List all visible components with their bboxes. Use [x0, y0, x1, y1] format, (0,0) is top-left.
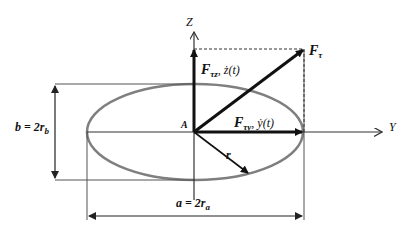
- f-tau-z-sub: τz: [210, 69, 218, 79]
- b-dimension-sub: b: [45, 126, 50, 136]
- f-tau-label: Fτ: [309, 44, 322, 60]
- y-axis-label: Y: [389, 121, 396, 133]
- a-dimension-text: a = 2r: [176, 196, 206, 210]
- f-tau-y-label: Fτy, ẏ(t): [234, 116, 274, 132]
- y-rate: , ẏ(t): [251, 116, 274, 130]
- z-rate: , ż(t): [218, 63, 240, 77]
- f-tau-z-label: Fτz, ż(t): [201, 63, 240, 79]
- a-dimension-label: a = 2ra: [176, 197, 210, 212]
- diagram-graphics: [0, 0, 412, 230]
- radius-vector: [194, 132, 248, 173]
- b-dimension-text: b = 2r: [15, 120, 45, 134]
- z-axis-label: Z: [186, 16, 193, 28]
- ellipse-force-diagram: Z Y A Fτ Fτz, ż(t) Fτy, ẏ(t) r b = 2rb a…: [0, 0, 412, 230]
- a-dimension-sub: a: [206, 202, 211, 212]
- radius-label: r: [226, 149, 231, 161]
- f-tau-sub: τ: [318, 50, 322, 60]
- b-dimension-label: b = 2rb: [15, 121, 49, 136]
- origin-label: A: [181, 120, 188, 130]
- f-tau-main: F: [309, 43, 318, 58]
- f-tau-z-main: F: [201, 62, 210, 77]
- f-tau-y-main: F: [234, 115, 243, 130]
